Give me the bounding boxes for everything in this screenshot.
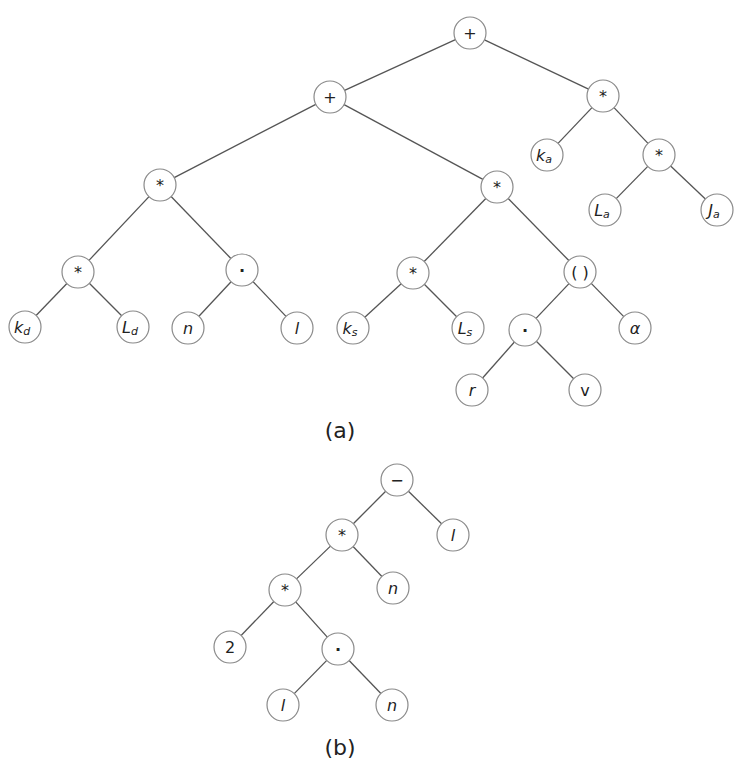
- node-label: 2: [225, 638, 235, 657]
- tree-node: −: [381, 464, 413, 496]
- tree-edge: [353, 491, 385, 523]
- node-label: n: [183, 319, 193, 338]
- tree-node: n: [376, 689, 408, 721]
- caption-b: (b): [324, 735, 355, 760]
- tree-node: r: [456, 374, 488, 406]
- tree-node: l: [281, 312, 313, 344]
- tree-edge: [483, 342, 515, 378]
- tree-node: Ld: [117, 311, 149, 343]
- tree-node: +: [454, 17, 486, 49]
- tree-edge: [558, 108, 592, 144]
- tree-edge: [353, 547, 382, 577]
- tree-node: *: [144, 169, 176, 201]
- tree-node: Ja: [701, 194, 733, 226]
- tree-a-nodes: ++***ka*LaJa*·*( )kdLdnlksLs·αrv: [9, 17, 733, 406]
- node-label: +: [463, 24, 476, 43]
- tree-node: La: [589, 194, 621, 226]
- node-label: v: [580, 381, 589, 400]
- node-label: l: [295, 319, 300, 338]
- tree-node: ks: [337, 312, 369, 344]
- tree-node: *: [643, 139, 675, 171]
- tree-edge: [424, 198, 486, 261]
- tree-edge: [616, 166, 648, 198]
- tree-node: *: [62, 256, 94, 288]
- tree-node: 2: [214, 631, 246, 663]
- tree-edge: [424, 284, 456, 316]
- tree-edge: [199, 282, 231, 317]
- tree-edge: [671, 166, 706, 199]
- tree-node: l: [437, 519, 469, 551]
- caption-a: (a): [325, 418, 356, 443]
- node-label: l: [451, 526, 456, 545]
- node-label: *: [493, 178, 501, 197]
- tree-node: ka: [531, 139, 563, 171]
- node-label: l: [281, 696, 286, 715]
- tree-edge: [536, 284, 569, 319]
- tree-node: *: [326, 519, 358, 551]
- node-label: ·: [335, 640, 341, 659]
- tree-edge: [174, 104, 316, 177]
- tree-edge: [484, 40, 588, 89]
- expression-tree-b: −*l*n2·ln (b): [214, 464, 469, 760]
- tree-node: *: [397, 257, 429, 289]
- tree-edge: [536, 341, 573, 378]
- tree-edge: [89, 283, 121, 315]
- tree-edge: [296, 602, 328, 637]
- tree-node: kd: [9, 311, 41, 343]
- tree-node: +: [314, 81, 346, 113]
- node-label: *: [655, 146, 663, 165]
- node-label: ·: [239, 261, 245, 280]
- tree-edge: [345, 40, 456, 91]
- expression-tree-figure: ++***ka*LaJa*·*( )kdLdnlksLs·αrv (a) −*l…: [0, 0, 743, 776]
- tree-edge: [591, 283, 624, 316]
- node-label: −: [390, 471, 403, 490]
- tree-edge: [241, 602, 274, 636]
- tree-edge: [508, 198, 569, 260]
- tree-node: ·: [322, 633, 354, 665]
- node-label: ( ): [571, 263, 589, 282]
- node-label: *: [281, 581, 289, 600]
- tree-edge: [297, 546, 331, 579]
- node-label: ·: [522, 321, 528, 340]
- tree-node: α: [619, 312, 651, 344]
- node-label: *: [338, 526, 346, 545]
- node-label: *: [409, 264, 417, 283]
- tree-edge: [344, 105, 483, 180]
- tree-node: l: [267, 689, 299, 721]
- node-label: n: [388, 579, 398, 598]
- tree-node: n: [377, 572, 409, 604]
- tree-node: ·: [509, 314, 541, 346]
- node-label: *: [599, 87, 607, 106]
- node-label: +: [323, 88, 336, 107]
- tree-node: Ls: [452, 312, 484, 344]
- node-label: *: [156, 176, 164, 195]
- tree-edge: [408, 491, 441, 524]
- tree-edge: [36, 284, 67, 316]
- expression-tree-a: ++***ka*LaJa*·*( )kdLdnlksLs·αrv (a): [9, 17, 733, 443]
- node-label: α: [630, 319, 641, 338]
- tree-node: ( ): [564, 256, 596, 288]
- tree-edge: [349, 661, 381, 694]
- tree-edge: [253, 282, 286, 317]
- tree-node: n: [172, 312, 204, 344]
- tree-edge: [614, 108, 648, 144]
- node-label: n: [387, 696, 397, 715]
- node-label: *: [74, 263, 82, 282]
- tree-edge: [365, 284, 401, 317]
- tree-edge: [171, 197, 231, 259]
- tree-node: *: [587, 80, 619, 112]
- tree-node: ·: [226, 254, 258, 286]
- tree-b-nodes: −*l*n2·ln: [214, 464, 469, 721]
- tree-node: v: [569, 374, 601, 406]
- tree-edge: [89, 197, 149, 261]
- tree-node: *: [269, 574, 301, 606]
- tree-node: *: [481, 171, 513, 203]
- tree-edge: [294, 660, 327, 693]
